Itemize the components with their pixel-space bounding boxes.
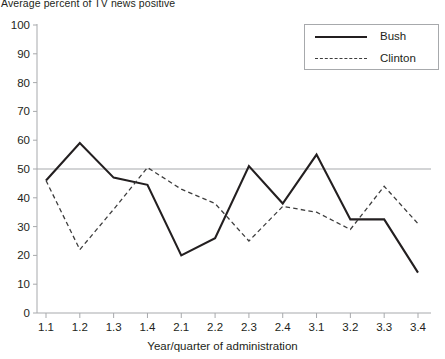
- x-axis-tick-label: 2.1: [164, 321, 198, 334]
- y-axis-tick-label: 10: [0, 278, 30, 290]
- y-axis-tick-label: 30: [0, 221, 30, 233]
- legend-item-label: Bush: [380, 29, 406, 44]
- series-line-clinton: [46, 168, 418, 250]
- legend-item-label: Clinton: [380, 51, 416, 66]
- x-axis-tick-label: 3.3: [367, 321, 401, 334]
- x-axis-tick-label: 3.2: [333, 321, 367, 334]
- y-axis-tick-label: 90: [0, 48, 30, 60]
- legend-item-bush: Bush: [305, 26, 440, 48]
- y-axis-tick-label: 50: [0, 163, 30, 175]
- y-axis-tick-label: 100: [0, 19, 30, 31]
- x-axis-tick-label: 3.4: [401, 321, 435, 334]
- x-axis-title: Year/quarter of administration: [0, 340, 445, 352]
- x-axis-tick-label: 2.2: [198, 321, 232, 334]
- legend-line-swatch-icon: [315, 36, 367, 38]
- y-axis-tick-label: 60: [0, 134, 30, 146]
- y-axis-tick-label: 70: [0, 105, 30, 117]
- y-axis-tick-label: 80: [0, 77, 30, 89]
- x-axis-tick-label: 1.3: [97, 321, 131, 334]
- y-axis-tick-label: 0: [0, 307, 30, 319]
- x-axis-tick-label: 2.4: [266, 321, 300, 334]
- y-axis-tick-label: 20: [0, 249, 30, 261]
- x-axis-tick-label: 3.1: [300, 321, 334, 334]
- x-axis-tick-label: 1.1: [29, 321, 63, 334]
- legend-line-swatch-icon: [315, 58, 367, 59]
- x-axis-tick-label: 1.4: [130, 321, 164, 334]
- series-line-bush: [46, 143, 418, 273]
- chart-legend: BushClinton: [304, 24, 439, 70]
- y-axis-tick-label: 40: [0, 192, 30, 204]
- x-axis-tick-label: 1.2: [63, 321, 97, 334]
- x-axis-tick-label: 2.3: [232, 321, 266, 334]
- chart-container: Average percent of TV news positive 0102…: [0, 0, 445, 359]
- legend-item-clinton: Clinton: [305, 48, 440, 70]
